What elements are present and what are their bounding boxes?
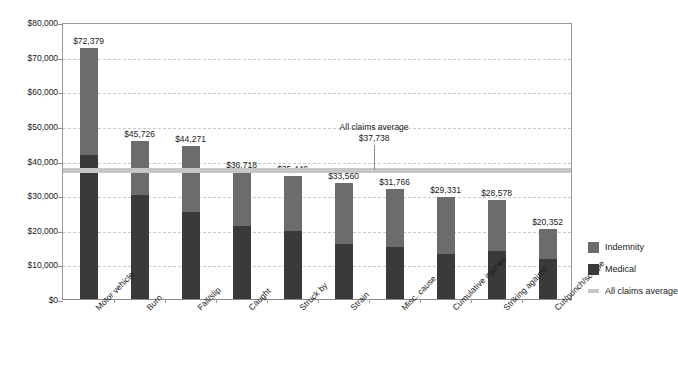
bar-segment-medical[interactable] xyxy=(182,212,200,299)
gridline xyxy=(63,93,571,94)
x-axis-tick xyxy=(369,299,370,303)
bar-total-label: $20,352 xyxy=(532,218,563,227)
bar-segment-indemnity[interactable] xyxy=(284,176,302,231)
legend-item[interactable]: All claims average xyxy=(588,280,678,302)
y-axis-tick xyxy=(58,24,63,25)
bar-segment-medical[interactable] xyxy=(284,231,302,299)
bar-segment-medical[interactable] xyxy=(80,155,98,299)
x-axis-tick xyxy=(165,299,166,303)
average-annotation-leader-line xyxy=(374,145,375,170)
bar-group[interactable]: $31,766 xyxy=(386,189,404,299)
y-axis-tick xyxy=(58,232,63,233)
bar-segment-medical[interactable] xyxy=(233,226,251,299)
y-axis-tick-label: $30,000 xyxy=(0,192,58,201)
average-annotation-label: All claims average xyxy=(314,122,434,133)
bar-segment-medical[interactable] xyxy=(335,244,353,299)
legend-item[interactable]: Indemnity xyxy=(588,236,678,258)
legend-swatch-medical xyxy=(588,264,599,275)
bar-segment-indemnity[interactable] xyxy=(437,197,455,254)
legend-item[interactable]: Medical xyxy=(588,258,678,280)
bar-total-label: $45,726 xyxy=(124,130,155,139)
y-axis-tick xyxy=(58,59,63,60)
bar-segment-medical[interactable] xyxy=(386,247,404,299)
legend-swatch-indemnity xyxy=(588,242,599,253)
y-axis-tick-label: $60,000 xyxy=(0,88,58,97)
y-axis-tick xyxy=(58,197,63,198)
y-axis-tick-label: $50,000 xyxy=(0,123,58,132)
y-axis-tick xyxy=(58,266,63,267)
bar-total-label: $72,379 xyxy=(73,37,104,46)
bar-segment-indemnity[interactable] xyxy=(386,189,404,247)
y-axis-tick xyxy=(58,163,63,164)
y-axis-tick-label: $40,000 xyxy=(0,158,58,167)
x-axis-tick xyxy=(471,299,472,303)
legend-label: All claims average xyxy=(605,286,678,296)
y-axis-tick-label: $10,000 xyxy=(0,261,58,270)
chart-figure: $80,000$70,000$60,000$50,000$40,000$30,0… xyxy=(0,0,678,382)
bar-group[interactable]: $35,449 xyxy=(284,176,302,299)
y-axis-tick xyxy=(58,128,63,129)
y-axis-tick-label: $20,000 xyxy=(0,227,58,236)
y-axis-tick xyxy=(58,93,63,94)
average-annotation-value: $37,738 xyxy=(314,133,434,144)
bar-total-label: $31,766 xyxy=(379,178,410,187)
bar-segment-indemnity[interactable] xyxy=(80,48,98,155)
bar-group[interactable]: $28,578 xyxy=(488,200,506,299)
bar-group[interactable]: $29,331 xyxy=(437,197,455,299)
x-axis-tick xyxy=(522,299,523,303)
x-axis-tick xyxy=(318,299,319,303)
y-axis-tick xyxy=(58,301,63,302)
bar-segment-indemnity[interactable] xyxy=(335,183,353,244)
legend-label: Indemnity xyxy=(605,242,644,252)
legend-swatch-avgline xyxy=(588,289,599,293)
average-annotation: All claims average $37,738 xyxy=(314,122,434,143)
y-axis-tick-label: $0 xyxy=(0,296,58,305)
x-axis-tick xyxy=(420,299,421,303)
y-axis-tick-label: $70,000 xyxy=(0,54,58,63)
all-claims-average-line xyxy=(63,168,571,173)
bar-segment-indemnity[interactable] xyxy=(488,200,506,250)
bar-total-label: $29,331 xyxy=(430,186,461,195)
bar-group[interactable]: $36,718 xyxy=(233,172,251,299)
bar-segment-medical[interactable] xyxy=(131,195,149,299)
y-axis-tick-label: $80,000 xyxy=(0,19,58,28)
x-axis-tick xyxy=(267,299,268,303)
bar-segment-indemnity[interactable] xyxy=(182,146,200,213)
legend-label: Medical xyxy=(605,264,636,274)
bar-segment-indemnity[interactable] xyxy=(539,229,557,260)
bar-segment-medical[interactable] xyxy=(437,254,455,299)
gridline xyxy=(63,59,571,60)
bar-group[interactable]: $33,560 xyxy=(335,183,353,299)
bar-total-label: $44,271 xyxy=(175,135,206,144)
bar-total-label: $28,578 xyxy=(481,189,512,198)
legend: IndemnityMedicalAll claims average xyxy=(588,236,678,302)
bar-segment-indemnity[interactable] xyxy=(233,172,251,226)
bar-group[interactable]: $72,379 xyxy=(80,48,98,299)
x-axis-tick xyxy=(114,299,115,303)
x-axis-tick xyxy=(216,299,217,303)
